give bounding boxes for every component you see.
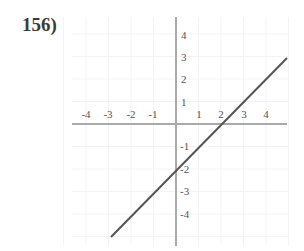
- y-tick-label--4: -4: [180, 209, 189, 220]
- x-tick-label-1: 1: [196, 109, 202, 120]
- x-tick-label--2: -2: [126, 109, 135, 120]
- x-tick-label--1: -1: [148, 109, 157, 120]
- x-tick-label-4: 4: [263, 109, 269, 120]
- coordinate-plane: [0, 0, 304, 251]
- y-tick-label-1: 1: [181, 97, 187, 108]
- x-tick-label-3: 3: [241, 109, 247, 120]
- y-tick-label--3: -3: [180, 186, 189, 197]
- graph-figure: 156): [0, 0, 304, 251]
- x-tick-label-2: 2: [218, 109, 224, 120]
- x-tick-label--3: -3: [103, 109, 112, 120]
- y-tick-label-4: 4: [181, 30, 187, 41]
- y-tick-label-3: 3: [181, 52, 187, 63]
- y-tick-label--1: -1: [180, 141, 189, 152]
- y-tick-label--2: -2: [180, 164, 189, 175]
- x-tick-label--4: -4: [81, 109, 90, 120]
- y-tick-label-2: 2: [181, 74, 187, 85]
